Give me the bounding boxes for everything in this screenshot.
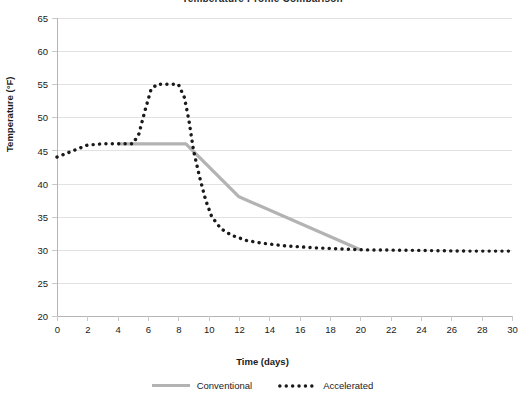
x-tick-label: 6 bbox=[146, 324, 151, 335]
x-tick-label: 18 bbox=[325, 324, 336, 335]
y-tick-label: 35 bbox=[37, 212, 48, 223]
legend-solid-line-icon bbox=[152, 384, 190, 387]
x-tick-label: 22 bbox=[386, 324, 397, 335]
x-tick-label: 24 bbox=[416, 324, 427, 335]
x-axis-tick-labels: 024681012141618202224262830 bbox=[55, 324, 518, 335]
x-axis-title: Time (days) bbox=[0, 356, 525, 367]
data-series bbox=[57, 84, 512, 251]
x-tick-label: 26 bbox=[447, 324, 458, 335]
plot-area: 20253035404550556065 0246810121416182022… bbox=[0, 0, 525, 410]
x-tick-label: 14 bbox=[265, 324, 276, 335]
x-tick-label: 4 bbox=[116, 324, 121, 335]
series-line-accelerated bbox=[57, 84, 512, 251]
y-tick-label: 20 bbox=[37, 311, 48, 322]
x-tick-label: 16 bbox=[295, 324, 306, 335]
y-tick-label: 30 bbox=[37, 245, 48, 256]
legend-item-conventional[interactable]: Conventional bbox=[152, 380, 252, 391]
legend-item-accelerated[interactable]: Accelerated bbox=[278, 380, 373, 391]
x-tick-label: 30 bbox=[507, 324, 518, 335]
y-tick-label: 45 bbox=[37, 146, 48, 157]
x-tick-label: 12 bbox=[234, 324, 245, 335]
x-tick-label: 28 bbox=[477, 324, 488, 335]
y-tick-label: 50 bbox=[37, 112, 48, 123]
legend-label-conventional: Conventional bbox=[197, 380, 252, 391]
y-tick-label: 55 bbox=[37, 79, 48, 90]
y-tick-label: 25 bbox=[37, 278, 48, 289]
legend-dotted-line-icon bbox=[278, 384, 316, 388]
x-tick-label: 20 bbox=[356, 324, 367, 335]
chart-container: Temperature Profile Comparison Temperatu… bbox=[0, 0, 525, 410]
x-tick-label: 2 bbox=[85, 324, 90, 335]
gridlines bbox=[57, 19, 512, 317]
chart-legend: Conventional Accelerated bbox=[0, 380, 525, 391]
y-tick-label: 65 bbox=[37, 13, 48, 24]
y-tick-label: 40 bbox=[37, 179, 48, 190]
x-tick-label: 10 bbox=[204, 324, 215, 335]
tickmarks bbox=[52, 18, 513, 321]
legend-label-accelerated: Accelerated bbox=[323, 380, 373, 391]
series-line-conventional bbox=[118, 144, 361, 250]
y-tick-label: 60 bbox=[37, 46, 48, 57]
x-tick-label: 0 bbox=[55, 324, 60, 335]
y-axis-tick-labels: 20253035404550556065 bbox=[37, 13, 48, 322]
x-tick-label: 8 bbox=[176, 324, 181, 335]
